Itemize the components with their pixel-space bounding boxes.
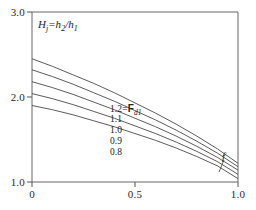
y-axis-title: Hj=h2/h1 — [38, 18, 78, 33]
y-tick-label-1: 1.0 — [0, 176, 25, 188]
curve-label-1.1: 1.1 — [110, 114, 122, 124]
y-axis-title-eq-h: =h — [48, 18, 61, 30]
curve-label-1.2-value: 1.2 — [110, 104, 122, 114]
f-annotation-label: f — [222, 150, 225, 162]
x-tick-label-1: 0 — [17, 188, 47, 200]
x-axis-ticks — [32, 182, 238, 187]
curve-label-0.8: 0.8 — [110, 147, 122, 157]
y-axis-title-slash-h: /h — [65, 18, 74, 30]
y-axis-title-sub-1: 1 — [74, 24, 78, 33]
y-tick-label-2: 2.0 — [0, 91, 25, 103]
y-axis-ticks — [27, 12, 32, 182]
curve-label-0.9: 0.9 — [110, 136, 122, 146]
y-axis-title-h: H — [38, 18, 46, 30]
curve-label-fd-sub: d1 — [134, 108, 142, 117]
data-curves — [32, 59, 238, 179]
curve-label-1.0: 1.0 — [110, 125, 122, 135]
chart-figure: 3.0 2.0 1.0 0 0.5 1.0 Hj=h2/h1 1.2=Fd1 1… — [0, 0, 256, 210]
x-tick-label-2: 0.5 — [120, 188, 150, 200]
x-tick-label-3: 1.0 — [223, 188, 253, 200]
y-tick-label-3: 3.0 — [0, 6, 25, 18]
